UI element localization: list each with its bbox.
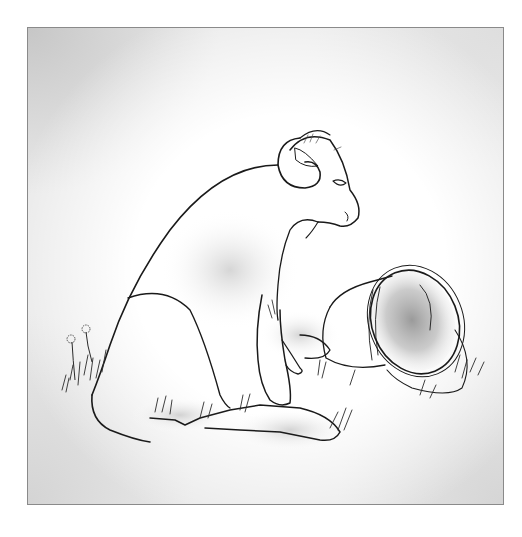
shading bbox=[130, 210, 469, 452]
ram-and-bucket-illustration bbox=[0, 0, 522, 537]
